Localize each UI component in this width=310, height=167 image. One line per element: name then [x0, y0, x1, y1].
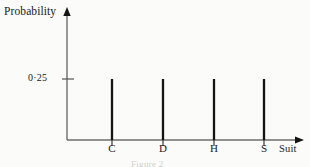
x-axis-label: Suit — [279, 144, 297, 155]
y-axis-arrow-icon — [63, 7, 70, 16]
x-tick-label-d: D — [153, 143, 173, 154]
x-tick-label-h: H — [204, 143, 224, 154]
x-tick-label-c: C — [102, 143, 122, 154]
y-axis-label: Probability — [4, 6, 56, 18]
figure-container: Probability 0·25 Suit C D H S Figure 2 — [0, 0, 310, 167]
x-tick-label-s: S — [254, 143, 274, 154]
y-tick-label-025: 0·25 — [28, 73, 47, 83]
figure-caption: Figure 2 — [131, 160, 164, 167]
